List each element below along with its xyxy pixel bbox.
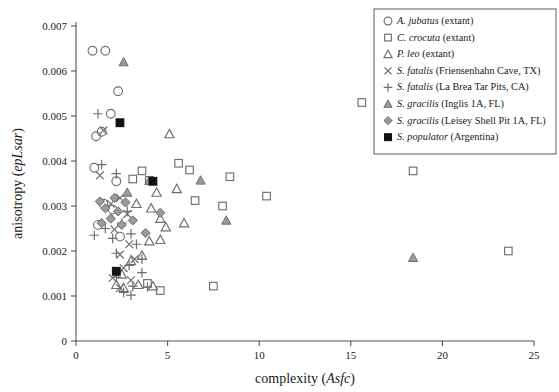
data-point	[408, 253, 417, 261]
data-point	[119, 57, 128, 65]
data-point	[126, 229, 136, 239]
x-tick-label: 25	[529, 349, 541, 361]
legend-label: S. gracilis (Inglis 1A, FL)	[397, 98, 504, 110]
data-point	[111, 169, 121, 179]
data-point	[226, 173, 234, 181]
y-tick-label: 0.001	[42, 290, 67, 302]
data-point	[93, 109, 103, 119]
data-point	[110, 193, 119, 202]
y-tick-label: 0.007	[42, 20, 67, 32]
data-point	[138, 167, 146, 175]
legend-marker-square-filled	[385, 134, 392, 141]
data-point	[165, 129, 174, 137]
y-tick-label: 0	[62, 335, 68, 347]
data-point	[147, 204, 156, 212]
data-point	[358, 99, 366, 107]
data-point	[175, 159, 183, 167]
legend-label: S. populator (Argentina)	[397, 131, 498, 143]
x-tick-label: 15	[345, 349, 357, 361]
data-point	[186, 166, 194, 174]
data-point	[127, 276, 135, 284]
data-point	[134, 280, 143, 288]
data-point	[112, 267, 120, 275]
data-point	[179, 219, 188, 227]
plot-svg: 00.0010.0020.0030.0040.0050.0060.0070510…	[0, 0, 559, 392]
data-point	[128, 281, 138, 291]
legend-label: S. gracilis (Leisey Shell Pit 1A, FL)	[397, 115, 546, 127]
data-point	[172, 184, 181, 192]
data-point	[156, 235, 165, 243]
x-tick-label: 0	[73, 349, 79, 361]
y-tick-label: 0.002	[42, 245, 67, 257]
y-tick-label: 0.006	[42, 65, 67, 77]
data-point	[111, 248, 121, 258]
y-axis-title: anisotropy (epLsar)	[10, 128, 26, 239]
data-point	[505, 247, 513, 255]
data-point	[88, 46, 97, 55]
data-point	[409, 167, 417, 175]
data-point	[89, 230, 99, 240]
data-point	[157, 287, 165, 295]
data-point	[116, 251, 124, 259]
data-point	[219, 202, 227, 210]
data-point	[191, 197, 199, 205]
data-point	[95, 197, 104, 206]
data-point	[156, 208, 165, 217]
x-tick-label: 20	[437, 349, 449, 361]
scatter-plot-figure: 00.0010.0020.0030.0040.0050.0060.0070510…	[0, 0, 559, 392]
legend: A. jubatus (extant)C. crocuta (extant)P.…	[374, 9, 556, 154]
data-point	[96, 171, 104, 179]
data-point	[117, 220, 126, 229]
legend-label: P. leo (extant)	[396, 48, 454, 60]
legend-label: A. jubatus (extant)	[396, 15, 473, 27]
legend-label: C. crocuta (extant)	[397, 32, 475, 44]
data-point	[210, 282, 218, 290]
data-point	[126, 256, 135, 264]
data-point	[149, 177, 157, 185]
x-tick-label: 10	[254, 349, 266, 361]
data-point	[123, 188, 132, 196]
data-point	[121, 198, 130, 207]
data-point	[92, 132, 101, 141]
data-point	[114, 207, 123, 216]
legend-label: S. fatalis (La Brea Tar Pits, CA)	[397, 81, 529, 93]
y-tick-label: 0.004	[42, 155, 67, 167]
y-tick-label: 0.005	[42, 110, 67, 122]
y-tick-label: 0.003	[42, 200, 67, 212]
data-point	[129, 175, 137, 183]
data-point	[122, 207, 132, 217]
x-axis-title: complexity (Asfc)	[255, 371, 355, 387]
data-point	[196, 176, 205, 184]
data-point	[137, 268, 147, 278]
data-point	[106, 109, 115, 118]
data-point	[101, 46, 110, 55]
data-point	[132, 199, 141, 207]
data-point	[111, 225, 119, 233]
data-point	[116, 232, 125, 241]
data-point	[152, 188, 161, 196]
data-point	[222, 216, 231, 224]
data-point	[106, 214, 115, 223]
x-tick-label: 5	[165, 349, 171, 361]
data-point	[116, 119, 124, 127]
data-point	[114, 87, 123, 96]
data-point	[263, 192, 271, 200]
data-point	[161, 223, 170, 231]
legend-label: S. fatalis (Friensenhahn Cave, TX)	[397, 65, 540, 77]
